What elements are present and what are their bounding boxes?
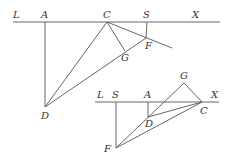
- line-CG: [107, 22, 125, 51]
- label-G: G: [121, 52, 129, 63]
- label-F-2: F: [103, 143, 112, 154]
- label-G-2: G: [180, 70, 188, 81]
- line-FC-2: [116, 102, 202, 148]
- label-A: A: [40, 9, 48, 20]
- label-L: L: [12, 9, 20, 20]
- label-L-2: L: [96, 89, 104, 100]
- label-S-2: S: [112, 89, 119, 100]
- geometry-diagram: L A C S X F G D L S A X G C D F: [0, 0, 226, 161]
- label-S: S: [143, 9, 150, 20]
- line-SF: [146, 22, 147, 38]
- label-A-2: A: [143, 89, 151, 100]
- label-D-2: D: [144, 118, 153, 129]
- label-X: X: [191, 9, 200, 20]
- label-F: F: [144, 40, 153, 51]
- label-C: C: [103, 9, 111, 20]
- label-X-2: X: [210, 89, 219, 100]
- figure-2: L S A X G C D F: [95, 70, 219, 154]
- label-C-2: C: [200, 105, 208, 116]
- line-C-through-F: [107, 22, 172, 48]
- line-GC-2: [184, 83, 202, 102]
- line-DF: [45, 38, 146, 107]
- label-D: D: [40, 110, 49, 121]
